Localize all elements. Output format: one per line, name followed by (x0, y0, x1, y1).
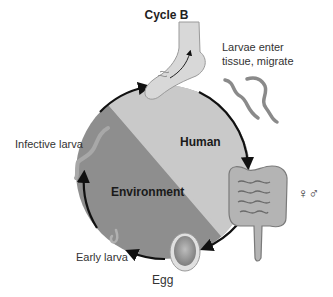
early-larva-label: Early larva (76, 251, 128, 264)
adult-sex-symbols: ♀♂ (298, 187, 319, 200)
larvae-migrate-label: tissue, migrate (222, 55, 294, 68)
intestine-icon (229, 166, 287, 261)
environment-zone-label: Environment (111, 185, 184, 199)
egg-label: Egg (152, 274, 173, 287)
egg-icon (170, 233, 200, 271)
infective-larva-label: Infective larva (15, 138, 83, 151)
larvae-worms-icon (225, 78, 277, 122)
human-zone-label: Human (180, 135, 221, 149)
larvae-enter-label: Larvae enter (222, 41, 284, 54)
